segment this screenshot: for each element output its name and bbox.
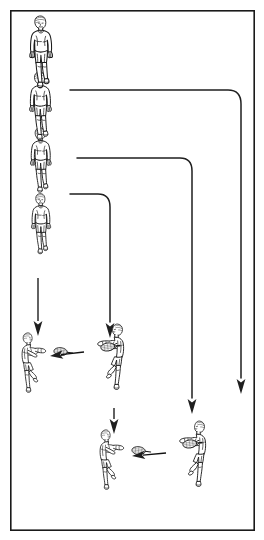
rally-player-left-lower	[100, 430, 124, 489]
diagram-canvas	[0, 0, 264, 540]
drill-diagram-figure: Badminton drill movement diagram	[0, 0, 264, 540]
arrow-down-left-column	[34, 278, 43, 336]
running-player-fourth	[31, 194, 50, 254]
movement-path-inner	[70, 194, 114, 338]
rally-player-right-lower	[180, 421, 206, 486]
movement-path-outer	[70, 90, 245, 394]
movement-path-middle	[77, 158, 196, 414]
rally-player-left-upper	[22, 333, 46, 392]
arrow-down-between-rally-pairs	[110, 408, 119, 434]
running-player-top	[30, 16, 53, 88]
